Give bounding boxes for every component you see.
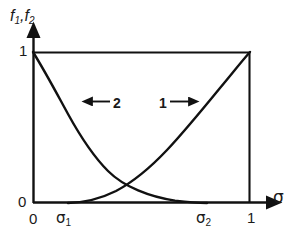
x-axis-title: σ [273,189,284,206]
sigma-glyph-1: σ [56,209,66,227]
sigma-glyph-2: σ [196,209,206,227]
y-axis-title: f1,f2 [10,8,34,24]
chart-figure: f1,f2 1 0 0 σ1 σ2 1 σ 2 1 [0,0,294,242]
chart-plot-area [0,0,294,242]
sigma-subscript-2: 2 [206,217,212,228]
curve-2-annotation-label: 2 [113,96,121,110]
x-tick-label-1: 1 [247,210,255,225]
y-tick-label-1: 1 [19,43,27,58]
y-axis-title-sub-1: 1 [14,15,20,26]
x-tick-label-sigma-1: σ1 [56,210,71,226]
x-tick-label-0: 0 [29,211,37,226]
series-curve-2 [33,52,207,203]
curve-1-annotation-label: 1 [159,96,167,110]
x-tick-label-sigma-2: σ2 [196,210,211,226]
y-axis-title-comma-f: ,f [20,7,29,24]
sigma-subscript-1: 1 [66,217,72,228]
series-curve-1 [68,52,250,203]
y-tick-label-0: 0 [18,194,26,209]
y-axis-title-sub-2: 2 [29,15,35,26]
